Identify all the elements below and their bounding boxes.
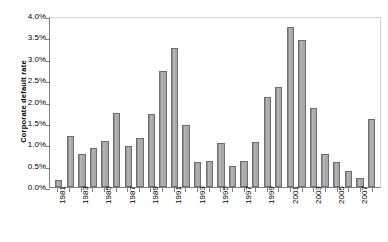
bar [125,146,132,187]
bar-slot [65,18,77,187]
x-label-slot [180,193,192,242]
x-label-slot: 2001 [285,193,297,242]
bar [159,71,166,187]
bar-slot [308,18,320,187]
bar [217,143,224,187]
y-tick-mark [46,18,50,19]
y-tick-mark [46,168,50,169]
bar [148,114,155,187]
x-tick-mark [232,188,233,192]
x-label-slot [87,193,99,242]
x-tick-mark [162,188,163,192]
bar [90,148,97,187]
x-label-slot: 1983 [75,193,87,242]
bar-slot [204,18,216,187]
y-tick-label: 0.5% [28,163,46,171]
y-tick-mark [46,61,50,62]
bar-slot [76,18,88,187]
y-tick-mark [46,39,50,40]
bar-slot [273,18,285,187]
x-label-slot: 1993 [192,193,204,242]
x-label-slot [157,193,169,242]
bar-slot [331,18,343,187]
y-tick-label: 1.0% [28,141,46,149]
x-label-slot [273,193,285,242]
x-label-slot [343,193,355,242]
bar-slot [215,18,227,187]
bar-slot [366,18,378,187]
y-tick-label: 2.0% [28,99,46,107]
bar [333,162,340,187]
bar [78,154,85,187]
bar-chart: Corporate default rate 4.0%3.5%3.0%2.5%2… [0,0,388,242]
bar-slot [88,18,100,187]
bar-slot [192,18,204,187]
bar [310,108,317,187]
x-label-slot [227,193,239,242]
x-label-slot: 1997 [238,193,250,242]
x-tick-mark [92,188,93,192]
x-label-slot: 1989 [145,193,157,242]
x-label-slot: 2007 [355,193,367,242]
bar [113,113,120,187]
bar [321,154,328,187]
x-label-slot [64,193,76,242]
x-tick-mark [325,188,326,192]
x-tick-mark [278,188,279,192]
bar [298,40,305,187]
bar-slot [238,18,250,187]
x-label-slot [296,193,308,242]
y-tick-mark [46,82,50,83]
x-tick-mark [209,188,210,192]
bar [136,138,143,187]
bar [275,87,282,187]
x-axis-tick-labels: 1981198319851987198919911993199519971999… [49,193,381,242]
x-label-slot: 1987 [122,193,134,242]
bar [171,48,178,187]
bar [240,161,247,188]
bar-slot [111,18,123,187]
bar-slot [354,18,366,187]
x-label-slot: 1999 [262,193,274,242]
x-label-slot [203,193,215,242]
y-tick-mark [46,125,50,126]
x-tick-mark [348,188,349,192]
bar [206,161,213,188]
bar-slot [99,18,111,187]
bar-slot [146,18,158,187]
plot-area [49,17,381,188]
x-label-slot: 2003 [308,193,320,242]
y-tick-label: 3.5% [28,34,46,42]
bar [252,142,259,187]
y-tick-label: 3.0% [28,56,46,64]
y-tick-label: 1.5% [28,120,46,128]
y-tick-mark [46,104,50,105]
bar-slot [134,18,146,187]
x-label-slot [320,193,332,242]
x-tick-mark [69,188,70,192]
x-label-slot: 1991 [168,193,180,242]
x-label-slot [133,193,145,242]
y-axis-tick-labels: 4.0%3.5%3.0%2.5%2.0%1.5%1.0%0.5%0.0% [10,0,46,242]
bar [194,162,201,187]
bar-slot [319,18,331,187]
bar-slot [250,18,262,187]
x-tick-mark [116,188,117,192]
bar-slot [227,18,239,187]
bar [101,141,108,187]
bar-slot [122,18,134,187]
y-tick-label: 4.0% [28,13,46,21]
x-label-slot [110,193,122,242]
x-label-slot: 1995 [215,193,227,242]
x-tick-mark [139,188,140,192]
y-tick-label: 0.0% [28,184,46,192]
bar-slot [342,18,354,187]
bar [229,166,236,187]
bar [368,119,375,187]
bar [287,27,294,187]
y-tick-mark [46,146,50,147]
x-tick-mark [372,188,373,192]
bar [264,97,271,187]
bar-slot [285,18,297,187]
x-label-slot [366,193,378,242]
